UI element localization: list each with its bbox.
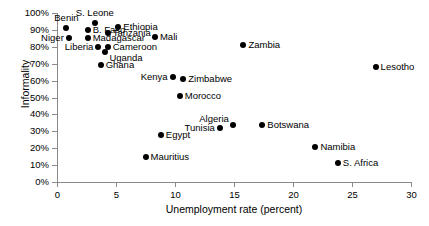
data-point-marker — [105, 44, 111, 50]
data-point-marker — [312, 144, 318, 150]
data-point-marker — [98, 62, 104, 68]
data-point-label: Mali — [160, 32, 177, 42]
data-point-label: Ghana — [106, 60, 135, 70]
plot-area: BeninNigerS. LeoneB. FasoMadagascarLiber… — [0, 0, 429, 226]
data-point-marker — [158, 132, 164, 138]
data-point-marker — [63, 25, 69, 31]
data-point-marker — [180, 76, 186, 82]
x-tick: 30 — [411, 182, 412, 187]
x-tick: 10 — [175, 182, 176, 187]
y-tick-label: 90% — [30, 24, 49, 35]
data-point-marker — [230, 122, 236, 128]
x-tick-label: 30 — [406, 189, 417, 200]
y-tick: 20% — [52, 148, 57, 149]
data-point-label: Tunisia — [185, 123, 215, 133]
y-tick-label: 10% — [30, 159, 49, 170]
y-tick: 50% — [52, 98, 57, 99]
data-point-label: Zambia — [248, 40, 280, 50]
y-tick: 70% — [52, 64, 57, 65]
data-point-label: B. Faso — [93, 25, 126, 35]
data-point-label: S. Africa — [343, 158, 378, 168]
y-tick-label: 100% — [25, 7, 49, 18]
y-tick-label: 60% — [30, 75, 49, 86]
data-point-label: Tanzania — [113, 28, 151, 38]
x-tick-label: 5 — [114, 189, 119, 200]
data-point-label: S. Leone — [76, 8, 114, 18]
data-point-label: Kenya — [141, 72, 168, 82]
data-point-marker — [92, 20, 98, 26]
y-tick: 60% — [52, 81, 57, 82]
data-point-marker — [95, 44, 101, 50]
data-point-marker — [85, 27, 91, 33]
x-tick: 5 — [116, 182, 117, 187]
y-tick-label: 50% — [30, 92, 49, 103]
scatter-chart: Informality Unemployment rate (percent) … — [0, 0, 429, 226]
data-point-marker — [105, 30, 111, 36]
x-tick-label: 15 — [229, 189, 240, 200]
data-point-label: Madagascar — [93, 33, 145, 43]
x-tick-label: 20 — [288, 189, 299, 200]
x-tick: 20 — [293, 182, 294, 187]
data-point-marker — [177, 93, 183, 99]
y-tick-label: 70% — [30, 58, 49, 69]
data-point-label: Lesotho — [381, 62, 415, 72]
x-tick-label: 0 — [55, 189, 60, 200]
x-tick: 0 — [57, 182, 58, 187]
data-point-marker — [102, 49, 108, 55]
data-point-label: Zimbabwe — [188, 74, 232, 84]
data-point-marker — [66, 35, 72, 41]
y-axis-line — [57, 13, 58, 183]
data-point-marker — [152, 34, 158, 40]
y-tick: 40% — [52, 114, 57, 115]
data-point-label: Liberia — [65, 42, 94, 52]
y-tick-label: 30% — [30, 125, 49, 136]
x-tick-label: 10 — [170, 189, 181, 200]
data-point-marker — [143, 154, 149, 160]
data-point-label: Morocco — [185, 91, 221, 101]
data-point-label: Cameroon — [113, 42, 157, 52]
data-point-label: Botswana — [267, 120, 309, 130]
y-tick: 100% — [52, 13, 57, 14]
data-point-marker — [85, 35, 91, 41]
data-point-label: Namibia — [320, 142, 355, 152]
data-point-label: Ethiopia — [123, 22, 157, 32]
y-tick-label: 40% — [30, 108, 49, 119]
x-tick: 15 — [234, 182, 235, 187]
y-tick: 80% — [52, 47, 57, 48]
data-point-marker — [335, 160, 341, 166]
x-axis-title: Unemployment rate (percent) — [57, 203, 411, 215]
data-point-label: Egypt — [166, 130, 190, 140]
y-tick: 90% — [52, 30, 57, 31]
y-tick: 30% — [52, 131, 57, 132]
data-point-marker — [240, 42, 246, 48]
data-point-label: Uganda — [109, 53, 142, 63]
data-point-label: Mauritius — [151, 152, 190, 162]
data-point-marker — [170, 74, 176, 80]
y-tick: 10% — [52, 165, 57, 166]
x-tick: 25 — [352, 182, 353, 187]
data-point-marker — [217, 125, 223, 131]
y-tick-label: 0% — [35, 176, 49, 187]
y-tick-label: 20% — [30, 142, 49, 153]
x-tick-label: 25 — [347, 189, 358, 200]
data-point-marker — [115, 24, 121, 30]
y-tick-label: 80% — [30, 41, 49, 52]
data-point-label: Algeria — [199, 114, 229, 124]
data-point-marker — [373, 64, 379, 70]
data-point-marker — [259, 122, 265, 128]
